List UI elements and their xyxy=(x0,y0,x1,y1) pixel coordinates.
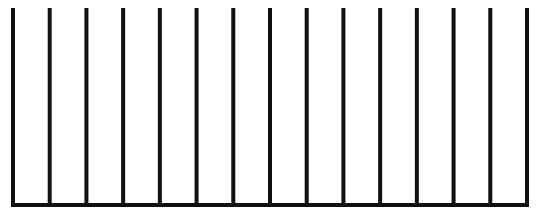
vertical-lines-group xyxy=(13,8,527,207)
comb-diagram xyxy=(0,0,537,212)
